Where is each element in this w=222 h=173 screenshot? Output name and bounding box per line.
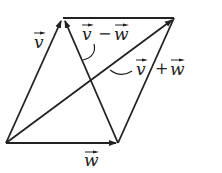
svg-text:v: v [34, 32, 44, 52]
svg-text:v: v [82, 24, 92, 44]
v-plus-w-leader [110, 70, 132, 74]
v-minus-w-leader [83, 44, 95, 60]
svg-text:w: w [170, 59, 185, 79]
label-v: v [34, 32, 44, 52]
label-v-minus-w: v − w [82, 24, 129, 44]
svg-text:−: − [98, 24, 111, 43]
vector-parallelogram-diagram: v v − w v + w w [0, 0, 222, 173]
svg-text:+: + [155, 59, 168, 78]
label-v-plus-w: v + w [136, 59, 185, 79]
svg-text:w: w [84, 150, 99, 170]
svg-text:w: w [114, 24, 129, 44]
label-w: w [84, 150, 99, 170]
svg-text:v: v [136, 59, 146, 79]
